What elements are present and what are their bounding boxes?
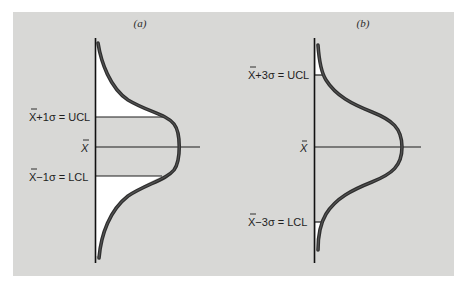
svg-text:X+1σ = UCL: X+1σ = UCL: [29, 111, 90, 123]
panel-a: (a) X+1σ = UCL X X−1σ = LCL: [29, 17, 200, 263]
svg-text:X−3σ = LCL: X−3σ = LCL: [248, 216, 307, 228]
panel-b-mean-label: X: [299, 141, 308, 154]
svg-text:X−1σ = LCL: X−1σ = LCL: [29, 171, 88, 183]
panel-b-ucl-label: X+3σ = UCL: [248, 67, 309, 81]
svg-text:X+3σ = UCL: X+3σ = UCL: [248, 69, 309, 81]
panel-a-upper-tail-fill: [96, 44, 162, 117]
svg-text:X: X: [299, 142, 308, 154]
panel-b-caption: (b): [357, 17, 370, 30]
panel-a-caption: (a): [134, 17, 147, 30]
panel-a-lcl-label: X−1σ = LCL: [29, 169, 88, 183]
panel-a-distribution-curve: [98, 43, 179, 258]
svg-text:X: X: [80, 142, 89, 154]
panel-a-mean-label: X: [80, 140, 89, 154]
panel-b: (b) X+3σ = UCL X X−3σ = LCL: [248, 17, 421, 263]
panel-a-lower-tail-fill: [96, 176, 162, 256]
panel-a-ucl-label: X+1σ = UCL: [29, 109, 90, 123]
panel-b-lcl-label: X−3σ = LCL: [248, 214, 307, 228]
control-limit-diagram: (a) X+1σ = UCL X X−1σ = LCL (b): [0, 0, 464, 287]
